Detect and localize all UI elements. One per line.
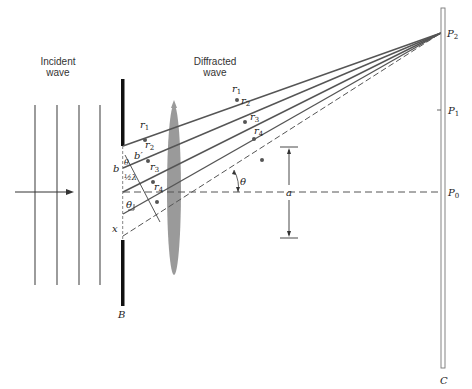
a-label: a <box>286 187 292 198</box>
diffracted-label-2: wave <box>202 67 227 78</box>
theta-lower-label: θ <box>126 199 132 210</box>
r2-label-near: r2 <box>145 139 154 152</box>
half-lambda-label: ½λ <box>124 173 137 182</box>
b-prime-label: b′ <box>134 150 143 161</box>
screen-label: C <box>440 375 448 386</box>
p2-label: P2 <box>446 28 458 41</box>
r2-label-far: r2 <box>241 95 250 108</box>
lens <box>167 105 181 275</box>
theta-slit-label: θ <box>124 158 129 167</box>
r1-label-far: r1 <box>232 83 241 96</box>
incident-wavefronts <box>35 105 100 285</box>
incident-label-1: Incident <box>40 56 75 67</box>
p0-label: P0 <box>447 187 459 200</box>
x-label: x <box>112 223 118 234</box>
r4-label-near: r4 <box>154 181 164 194</box>
diffraction-diagram: Incident wave Diffracted wave r1 r2 r3 r… <box>0 0 472 389</box>
incident-label-2: wave <box>45 67 70 78</box>
diffracted-label-1: Diffracted <box>194 56 237 67</box>
r3-label-far: r3 <box>250 111 259 124</box>
screen <box>437 8 445 368</box>
barrier-label: B <box>117 309 125 320</box>
lens-tip <box>171 100 177 108</box>
theta-center-label: θ <box>240 176 246 187</box>
r3-label-near: r3 <box>150 161 159 174</box>
r4-label-far: r4 <box>254 125 264 138</box>
p1-label: P1 <box>447 105 459 118</box>
r1-label-near: r1 <box>140 119 149 132</box>
b-label: b <box>113 163 119 174</box>
incident-arrow-icon <box>15 189 74 195</box>
